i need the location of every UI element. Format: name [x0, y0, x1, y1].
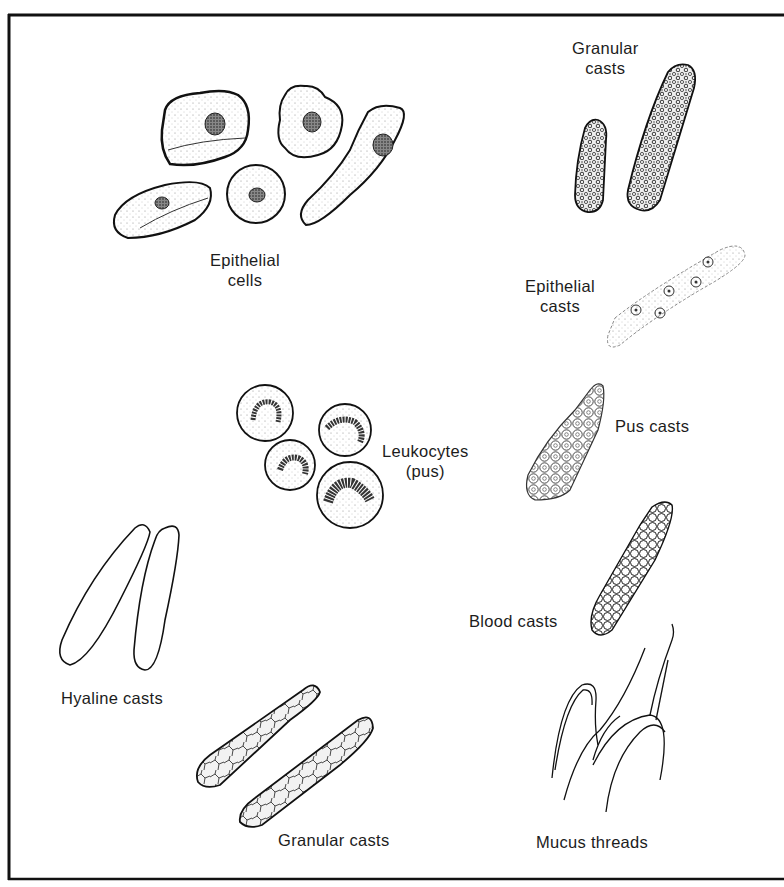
epithelial-cast-illustration: [608, 246, 746, 347]
label-pus-casts: Pus casts: [615, 416, 689, 436]
label-leukocytes: Leukocytes (pus): [382, 441, 468, 481]
label-mucus-threads: Mucus threads: [536, 832, 648, 852]
label-line: Leukocytes: [382, 441, 468, 461]
label-line: cells: [210, 270, 280, 290]
label-granular-casts-top: Granular casts: [572, 38, 639, 78]
leukocytes-illustration: [237, 385, 383, 528]
label-granular-casts-bottom: Granular casts: [278, 830, 390, 850]
label-line: Epithelial: [210, 250, 280, 270]
granular-casts-bottom-illustration: [197, 685, 373, 826]
label-hyaline-casts: Hyaline casts: [61, 688, 163, 708]
label-line: (pus): [382, 461, 468, 481]
pus-cast-illustration: [527, 384, 604, 500]
mucus-threads-illustration: [552, 624, 674, 812]
label-line: Epithelial: [525, 276, 595, 296]
label-epithelial-cells: Epithelial cells: [210, 250, 280, 290]
label-line: Granular: [572, 38, 639, 58]
diagram-frame: Epithelial cells Granular casts Epitheli…: [0, 0, 784, 887]
hyaline-casts-illustration: [60, 525, 179, 670]
blood-cast-illustration: [591, 502, 672, 635]
label-line: casts: [572, 58, 639, 78]
label-line: casts: [525, 296, 595, 316]
label-blood-casts: Blood casts: [469, 611, 558, 631]
epithelial-cells-illustration: [114, 86, 404, 238]
label-epithelial-casts: Epithelial casts: [525, 276, 595, 316]
granular-casts-top-illustration: [575, 64, 695, 212]
